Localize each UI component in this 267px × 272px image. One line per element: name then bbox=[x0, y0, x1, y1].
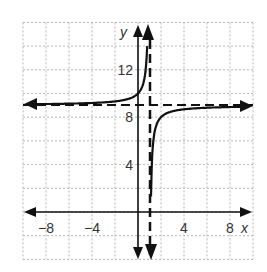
y-tick-label: 12 bbox=[117, 62, 133, 78]
x-tick-label: 8 bbox=[226, 220, 234, 236]
x-tick-label: 4 bbox=[180, 220, 188, 236]
y-tick-label: 4 bbox=[125, 157, 133, 173]
x-axis-label: x bbox=[240, 220, 249, 236]
graph: −8−448 4812 x y bbox=[0, 0, 267, 272]
left-branch-top-arrow bbox=[142, 24, 154, 40]
y-tick-label: 8 bbox=[125, 109, 133, 125]
right-branch-arrow bbox=[240, 100, 253, 112]
x-tick-label: −4 bbox=[84, 220, 100, 236]
y-axis bbox=[133, 25, 143, 259]
y-axis-label: y bbox=[119, 24, 128, 40]
right-branch-bottom-arrow bbox=[145, 244, 157, 260]
x-tick-label: −8 bbox=[38, 220, 54, 236]
x-tick-labels: −8−448 bbox=[38, 220, 234, 236]
left-branch-arrow bbox=[24, 98, 37, 110]
